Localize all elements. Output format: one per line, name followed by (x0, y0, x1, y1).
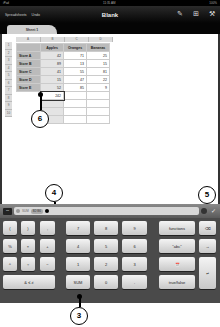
cell[interactable]: 71 (64, 52, 87, 60)
key-next[interactable]: → (199, 239, 216, 253)
cell[interactable] (41, 100, 64, 108)
callout-3: 3 (70, 307, 88, 325)
spreadsheets-button[interactable]: Spreadsheets (5, 13, 27, 17)
key-text[interactable]: "abc" (159, 239, 195, 253)
table-row (17, 100, 110, 108)
header-cell[interactable]: Oranges (64, 44, 87, 52)
row-header[interactable]: 3 (5, 57, 12, 65)
key-5[interactable]: 5 (94, 239, 118, 253)
callout-4-anchor (45, 209, 49, 213)
key-multiply[interactable]: × (21, 239, 35, 253)
cell[interactable]: 81 (87, 68, 110, 76)
cell[interactable] (87, 116, 110, 124)
cell[interactable]: 41 (41, 68, 64, 76)
key-7[interactable]: 7 (66, 221, 90, 235)
table-row (17, 108, 110, 116)
cell[interactable] (87, 108, 110, 116)
cell[interactable]: 9 (87, 84, 110, 92)
cell[interactable] (87, 100, 110, 108)
key-4[interactable]: 4 (66, 239, 90, 253)
accept-formula-icon[interactable]: ✓ (209, 207, 217, 215)
key-delete[interactable]: ⌫ (199, 221, 216, 235)
key-percent[interactable]: % (3, 239, 17, 253)
cell[interactable] (87, 92, 110, 100)
key-decimal[interactable]: . (122, 275, 147, 289)
key-logic[interactable]: & ≤ ≠ (3, 275, 55, 289)
row-header[interactable]: 1 (5, 42, 12, 50)
toolbar: Spreadsheets Undo Blank ✎ ⊞ ⚒ (0, 6, 220, 23)
cell[interactable]: 55 (64, 68, 87, 76)
tools-icon[interactable]: ⚒ (208, 9, 216, 18)
header-cell[interactable] (17, 44, 41, 52)
header-cell[interactable]: Bananas (87, 44, 110, 52)
key-8[interactable]: 8 (94, 221, 118, 235)
cell[interactable]: 52 (41, 84, 64, 92)
selected-cell[interactable]: 242 (41, 92, 64, 100)
formula-input[interactable]: SUM B2:B6 (14, 207, 199, 215)
key-minus[interactable]: − (40, 257, 55, 271)
cell[interactable] (64, 108, 87, 116)
key-caret[interactable]: ^ (3, 257, 17, 271)
spreadsheet-canvas[interactable]: A B C D 1 2 3 4 5 6 7 8 9 10 Apples Oran… (0, 34, 220, 204)
cell[interactable]: 47 (64, 76, 87, 84)
row-header[interactable]: 7 (5, 87, 12, 95)
column-header-b[interactable]: B (41, 37, 65, 42)
row-label-cell[interactable]: Store E (17, 84, 41, 92)
row-header[interactable]: 2 (5, 50, 12, 58)
wrench-icon[interactable]: ✎ (176, 9, 184, 18)
row-label-cell[interactable]: Store B (17, 60, 41, 68)
cell[interactable]: 22 (87, 76, 110, 84)
range-token[interactable]: B2:B6 (31, 209, 43, 214)
key-6[interactable]: 6 (122, 239, 147, 253)
cell[interactable] (17, 100, 41, 108)
key-right-paren[interactable]: ) (21, 221, 35, 235)
cell[interactable] (17, 92, 41, 100)
key-2[interactable]: 2 (94, 257, 118, 271)
cell[interactable]: 13 (64, 60, 87, 68)
cell[interactable]: 15 (41, 76, 64, 84)
row-label-cell[interactable]: Store D (17, 76, 41, 84)
row-header[interactable]: 6 (5, 80, 12, 88)
row-header[interactable]: 10 (5, 110, 12, 118)
column-header-d[interactable]: D (89, 37, 113, 42)
key-divide[interactable]: ÷ (21, 257, 35, 271)
key-9[interactable]: 9 (122, 221, 147, 235)
callout-3-leader (79, 297, 81, 307)
key-plus[interactable]: + (40, 239, 55, 253)
formula-bar: ••• SUM B2:B6 ✓ (0, 204, 220, 218)
cell[interactable] (64, 100, 87, 108)
key-0[interactable]: 0 (94, 275, 118, 289)
function-token[interactable]: SUM (22, 209, 29, 213)
row-header[interactable]: 4 (5, 65, 12, 73)
row-label-cell[interactable]: Store C (17, 68, 41, 76)
key-left-paren[interactable]: ( (3, 221, 17, 235)
cell[interactable] (64, 92, 87, 100)
cell[interactable]: 89 (41, 60, 64, 68)
row-header[interactable]: 9 (5, 102, 12, 110)
key-1[interactable]: 1 (66, 257, 90, 271)
formula-menu-button[interactable]: ••• (3, 208, 12, 215)
callout-5: 5 (198, 186, 216, 204)
key-return[interactable]: ↵ (199, 257, 216, 289)
column-header-a[interactable]: A (16, 37, 41, 42)
cell[interactable] (64, 116, 87, 124)
key-3[interactable]: 3 (122, 257, 147, 271)
key-true-false[interactable]: true/false (159, 275, 195, 289)
column-headers: A B C D (16, 37, 113, 42)
key-comma[interactable]: , (40, 221, 55, 235)
add-icon[interactable]: ⊞ (192, 9, 200, 18)
key-date[interactable]: 📅 (159, 257, 195, 271)
key-sum[interactable]: SUM (66, 275, 90, 289)
cell[interactable]: 42 (41, 52, 64, 60)
cancel-formula-icon[interactable] (201, 208, 207, 214)
header-cell[interactable]: Apples (41, 44, 64, 52)
row-label-cell[interactable]: Store A (17, 52, 41, 60)
cell[interactable]: 85 (64, 84, 87, 92)
key-functions[interactable]: functions (159, 221, 195, 235)
undo-button[interactable]: Undo (32, 13, 40, 17)
row-header[interactable]: 8 (5, 95, 12, 103)
cell[interactable]: 15 (87, 60, 110, 68)
column-header-c[interactable]: C (65, 37, 89, 42)
cell[interactable]: 25 (87, 52, 110, 60)
row-header[interactable]: 5 (5, 72, 12, 80)
